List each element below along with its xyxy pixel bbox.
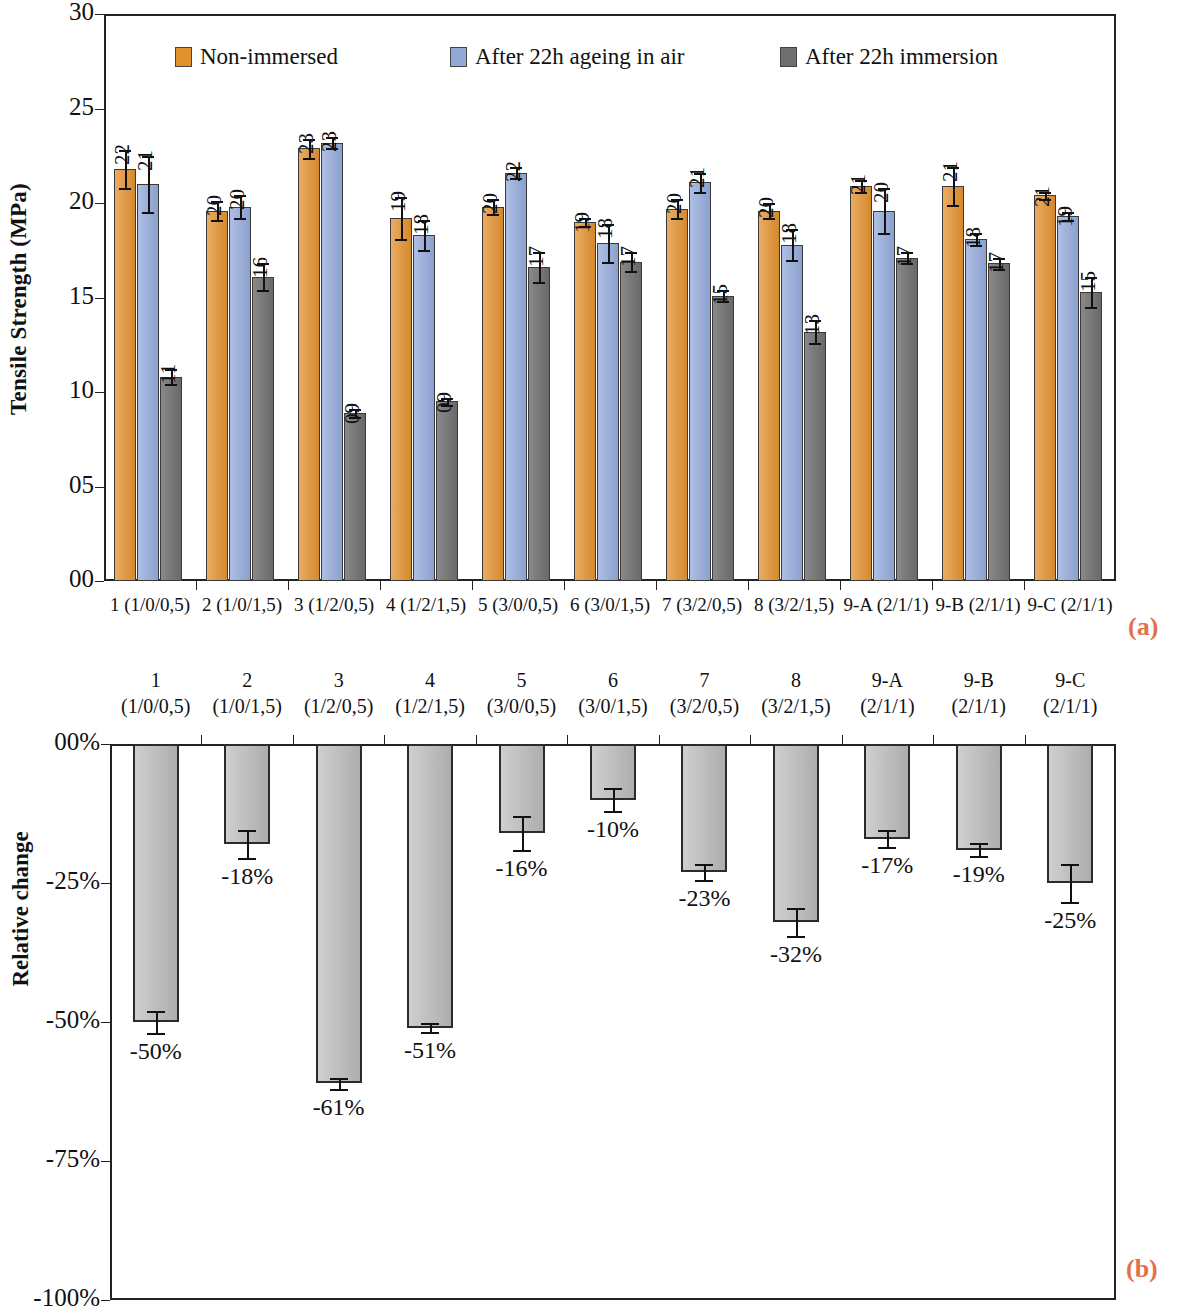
chart-a-value-label: 20 xyxy=(871,182,892,203)
chart-a-error-cap-bottom xyxy=(1085,307,1097,309)
chart-b-value-label: -32% xyxy=(760,942,832,966)
chart-b-value-label: -16% xyxy=(486,856,558,880)
chart-a-ytick-mark xyxy=(95,14,104,15)
chart-b-y-axis-title: Relative change xyxy=(4,780,38,1040)
chart-a-value-label: 21 xyxy=(1032,186,1053,207)
chart-b-error-cap-bottom xyxy=(513,850,531,852)
chart-a-error-cap-bottom xyxy=(418,250,430,252)
chart-a-bar xyxy=(689,182,712,581)
chart-a-value-label: 20 xyxy=(480,193,501,214)
chart-b-error-cap-bottom xyxy=(604,811,622,813)
chart-a-category-label: 9-C (2/1/1) xyxy=(1018,594,1122,615)
chart-b-ytick-group: -100% xyxy=(10,1285,100,1308)
chart-b-error-cap-top xyxy=(238,830,256,832)
chart-b-error-cap-top xyxy=(787,908,805,910)
chart-b-bar xyxy=(864,744,910,839)
chart-a-ytick-label: 00 xyxy=(69,566,94,591)
chart-b-value-label: -23% xyxy=(668,886,740,910)
chart-a-bar xyxy=(850,186,873,581)
chart-a-error-cap-bottom xyxy=(211,220,223,222)
chart-a-ytick-group: 05 xyxy=(8,472,94,498)
chart-b-error-cap-bottom xyxy=(421,1032,439,1034)
chart-panel-a: Tensile Strength (MPa) 00051015202530 22… xyxy=(0,0,1182,650)
chart-b-bar xyxy=(316,744,362,1083)
chart-a-value-label: 20 xyxy=(756,197,777,218)
chart-b-xtick xyxy=(201,735,202,744)
chart-b-value-label: -18% xyxy=(211,864,283,888)
chart-a-bar xyxy=(160,377,183,581)
chart-b-error-bar xyxy=(1070,864,1072,903)
chart-b-category-label-line2: (2/1/1) xyxy=(1013,694,1128,718)
chart-b-error-cap-bottom xyxy=(1061,902,1079,904)
chart-a-legend-item: After 22h immersion xyxy=(780,44,998,70)
chart-b-bar xyxy=(956,744,1002,850)
chart-a-bar xyxy=(896,258,919,581)
chart-a-bar xyxy=(1034,195,1057,581)
chart-a-bar xyxy=(505,173,528,581)
chart-a-legend-swatch xyxy=(780,47,797,67)
chart-a-bar xyxy=(298,148,321,581)
chart-b-xtick xyxy=(933,735,934,744)
chart-b-error-cap-top xyxy=(1061,864,1079,866)
chart-b-error-cap-bottom xyxy=(878,847,896,849)
chart-a-value-label: 15 xyxy=(1078,271,1099,292)
panel-b-tag: (b) xyxy=(1126,1254,1158,1284)
chart-a-value-label: 21 xyxy=(687,167,708,188)
chart-a-ytick-mark xyxy=(95,298,104,299)
chart-a-bar xyxy=(390,218,413,581)
chart-a-ytick-group: 20 xyxy=(8,188,94,214)
chart-b-bar xyxy=(681,744,727,872)
chart-a-ytick-mark xyxy=(95,109,104,110)
chart-a-error-cap-bottom xyxy=(671,218,683,220)
chart-a-error-cap-bottom xyxy=(602,262,614,264)
chart-a-value-label: 19 xyxy=(1055,206,1076,227)
chart-a-category-label: 1 (1/0/0,5) xyxy=(98,594,202,615)
chart-b-value-label: -61% xyxy=(303,1095,375,1119)
chart-a-ytick-label: 30 xyxy=(69,0,94,24)
chart-a-legend-swatch xyxy=(175,47,192,67)
chart-b-value-label: -19% xyxy=(943,862,1015,886)
chart-b-bar xyxy=(224,744,270,844)
chart-a-bar xyxy=(114,169,137,581)
chart-a-category-label: 5 (3/0/0,5) xyxy=(466,594,570,615)
chart-a-bar xyxy=(620,262,643,581)
chart-a-error-cap-bottom xyxy=(395,239,407,241)
chart-b-error-cap-top xyxy=(421,1023,439,1025)
chart-a-error-cap-bottom xyxy=(786,260,798,262)
chart-a-xtick xyxy=(196,581,197,590)
chart-a-bar xyxy=(965,239,988,581)
chart-b-xtick xyxy=(384,735,385,744)
chart-a-bar xyxy=(482,207,505,581)
chart-b-ytick-label: -50% xyxy=(46,1007,100,1032)
chart-a-category-label: 9-A (2/1/1) xyxy=(834,594,938,615)
chart-b-error-cap-top xyxy=(695,864,713,866)
chart-a-value-label: 23 xyxy=(319,131,340,152)
chart-a-value-label: 23 xyxy=(296,133,317,154)
chart-b-error-cap-bottom xyxy=(147,1033,165,1035)
chart-a-bar xyxy=(574,222,597,581)
chart-b-error-cap-top xyxy=(970,843,988,845)
chart-a-error-cap-bottom xyxy=(303,158,315,160)
chart-a-value-label: 17 xyxy=(986,252,1007,273)
chart-a-value-label: 09 xyxy=(342,403,363,424)
chart-b-error-cap-bottom xyxy=(695,880,713,882)
chart-a-category-label: 9-B (2/1/1) xyxy=(926,594,1030,615)
chart-a-category-label: 2 (1/0/1,5) xyxy=(190,594,294,615)
chart-b-error-bar xyxy=(979,843,981,856)
chart-a-bar xyxy=(206,211,229,581)
chart-b-ytick-mark xyxy=(101,1022,110,1023)
chart-panel-b: Relative change 00%-25%-50%-75%-100% 1(1… xyxy=(0,650,1182,1308)
chart-a-xtick xyxy=(380,581,381,590)
chart-a-bar xyxy=(1080,292,1103,581)
chart-a-value-label: 13 xyxy=(802,314,823,335)
chart-b-ytick-group: -50% xyxy=(10,1007,100,1033)
chart-b-error-cap-top xyxy=(147,1011,165,1013)
chart-a-ytick-group: 00 xyxy=(8,566,94,592)
chart-b-value-label: -51% xyxy=(394,1038,466,1062)
chart-a-category-label: 4 (1/2/1,5) xyxy=(374,594,478,615)
chart-a-ytick-mark xyxy=(95,581,104,582)
chart-b-bar xyxy=(133,744,179,1022)
chart-a-ytick-label: 05 xyxy=(69,472,94,497)
chart-b-error-bar xyxy=(522,816,524,849)
chart-b-xtick xyxy=(1025,735,1026,744)
